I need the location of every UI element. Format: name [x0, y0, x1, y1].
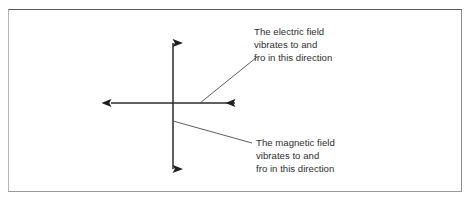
magnetic-leader-line	[173, 121, 252, 143]
electric-field-annotation-text: The electric field vibrates to and fro i…	[254, 25, 332, 65]
diagram-canvas	[0, 0, 470, 201]
magnetic-field-annotation-text: The magnetic field vibrates to and fro i…	[256, 136, 335, 176]
figure-container: The electric field vibrates to and fro i…	[0, 0, 470, 201]
electric-leader-line	[200, 57, 257, 103]
